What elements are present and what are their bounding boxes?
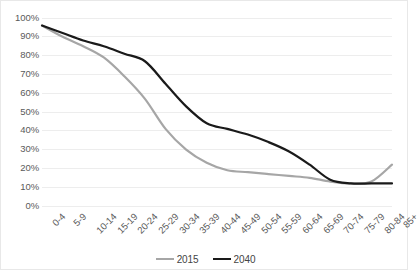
x-axis-tick-label: 5-9 (71, 211, 88, 228)
x-axis-tick-label: 70-74 (341, 211, 366, 236)
x-axis-tick-label: 50-54 (259, 211, 284, 236)
chart-container: 0%10%20%30%40%50%60%70%80%90%100% 0-45-9… (0, 0, 408, 270)
x-axis-tick-label: 65-69 (321, 211, 346, 236)
legend-item-2040[interactable]: 2040 (213, 254, 256, 265)
x-axis-tick-label: 30-34 (176, 211, 201, 236)
x-axis-tick-label: 0-4 (50, 211, 67, 228)
legend-item-label: 2040 (234, 254, 256, 265)
x-axis-tick-labels: 0-45-910-1415-1920-2425-2930-3435-3940-4… (1, 1, 410, 271)
legend-line-swatch (156, 258, 174, 261)
x-axis-tick-label: 85+ (401, 211, 420, 230)
x-axis-tick-label: 75-79 (362, 211, 387, 236)
x-axis-tick-label: 20-24 (135, 211, 160, 236)
legend-line-swatch (213, 258, 231, 261)
x-axis-tick-label: 25-29 (156, 211, 181, 236)
chart-legend: 20152040 (1, 251, 410, 267)
x-axis-tick-label: 10-14 (94, 211, 119, 236)
legend-item-2015[interactable]: 2015 (156, 254, 199, 265)
x-axis-tick-label: 60-64 (300, 211, 325, 236)
x-axis-tick-label: 45-49 (238, 211, 263, 236)
x-axis-tick-label: 55-59 (279, 211, 304, 236)
x-axis-tick-label: 35-39 (197, 211, 222, 236)
legend-item-label: 2015 (177, 254, 199, 265)
x-axis-tick-label: 40-44 (218, 211, 243, 236)
x-axis-tick-label: 15-19 (115, 211, 140, 236)
